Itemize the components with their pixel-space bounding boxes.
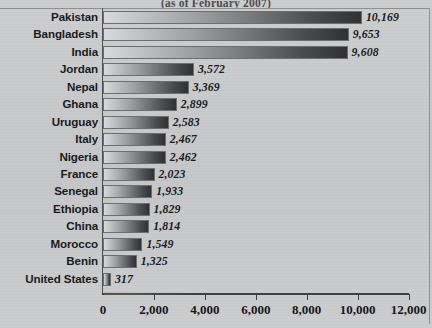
- bar-row: Uruguay2,583: [0, 114, 432, 131]
- x-axis-tick: [409, 294, 411, 300]
- bar-row: Bangladesh9,653: [0, 26, 432, 43]
- bar-fill: [103, 28, 349, 41]
- bar-fill: [103, 116, 169, 129]
- bar: [103, 46, 348, 59]
- bar: [103, 151, 166, 164]
- bar-value-label: 2,583: [173, 115, 200, 130]
- bar-category-label: Bangladesh: [0, 26, 98, 43]
- bar-value-label: 2,023: [159, 167, 186, 182]
- x-axis-tick: [358, 294, 360, 300]
- bar: [103, 98, 177, 111]
- bar-value-label: 9,653: [353, 27, 380, 42]
- bar-row: France2,023: [0, 166, 432, 183]
- bar-chart-rows: Pakistan10,169Bangladesh9,653India9,608J…: [0, 9, 432, 290]
- bar-fill: [103, 151, 166, 164]
- bar-value-label: 10,169: [366, 10, 399, 25]
- bar-fill: [103, 185, 152, 198]
- bar: [103, 63, 194, 76]
- x-axis-tick-label: 2,000: [139, 302, 168, 318]
- bar-value-label: 3,369: [193, 80, 220, 95]
- bar-category-label: Pakistan: [0, 9, 98, 26]
- bar-row: Ghana2,899: [0, 96, 432, 113]
- x-axis-tick: [307, 294, 309, 300]
- bar: [103, 168, 155, 181]
- bar-fill: [103, 98, 177, 111]
- bar-fill: [103, 168, 155, 181]
- x-axis-tick-label: 4,000: [190, 302, 219, 318]
- bar-category-label: Benin: [0, 253, 98, 270]
- x-axis-tick-label: 8,000: [292, 302, 321, 318]
- bar-fill: [103, 273, 111, 286]
- bar-value-label: 2,899: [181, 97, 208, 112]
- bar-category-label: China: [0, 218, 98, 235]
- bar-row: China1,814: [0, 218, 432, 235]
- bar-fill: [103, 220, 149, 233]
- bar: [103, 220, 149, 233]
- bar-fill: [103, 46, 348, 59]
- bar-value-label: 3,572: [198, 62, 225, 77]
- bar-row: United States317: [0, 271, 432, 288]
- bar: [103, 11, 362, 24]
- bar-fill: [103, 255, 137, 268]
- bar-category-label: Morocco: [0, 236, 98, 253]
- bar-value-label: 2,467: [170, 132, 197, 147]
- x-axis-tick: [154, 294, 156, 300]
- scanned-page-background: (as of February 2007) Pakistan10,169Bang…: [0, 0, 432, 328]
- bar: [103, 116, 169, 129]
- bar: [103, 255, 137, 268]
- bar: [103, 28, 349, 41]
- bar-category-label: India: [0, 44, 98, 61]
- bar-category-label: Italy: [0, 131, 98, 148]
- bar-fill: [103, 203, 150, 216]
- bar-fill: [103, 11, 362, 24]
- bar-row: India9,608: [0, 44, 432, 61]
- bar-value-label: 1,325: [141, 254, 168, 269]
- bar-fill: [103, 63, 194, 76]
- bar-row: Nepal3,369: [0, 79, 432, 96]
- x-axis-tick-label: 10,000: [340, 302, 376, 318]
- bar-category-label: Nepal: [0, 79, 98, 96]
- bar-category-label: Ethiopia: [0, 201, 98, 218]
- bar-fill: [103, 238, 142, 251]
- bar-row: Italy2,467: [0, 131, 432, 148]
- bar-row: Jordan3,572: [0, 61, 432, 78]
- bar-value-label: 1,933: [156, 184, 183, 199]
- bar-value-label: 9,608: [352, 45, 379, 60]
- bar-row: Pakistan10,169: [0, 9, 432, 26]
- x-axis-tick-label: 0: [100, 302, 107, 318]
- bar-category-label: Nigeria: [0, 149, 98, 166]
- x-axis-tick-label: 12,000: [391, 302, 427, 318]
- x-axis-tick-label: 6,000: [241, 302, 270, 318]
- bar-row: Benin1,325: [0, 253, 432, 270]
- bar-row: Ethiopia1,829: [0, 201, 432, 218]
- bar-fill: [103, 81, 189, 94]
- bar-value-label: 317: [115, 272, 133, 287]
- bar-category-label: Jordan: [0, 61, 98, 78]
- bar-row: Morocco1,549: [0, 236, 432, 253]
- bar-category-label: Uruguay: [0, 114, 98, 131]
- bar: [103, 203, 150, 216]
- y-axis-line: [102, 8, 103, 293]
- bar-fill: [103, 133, 166, 146]
- bar-row: Senegal1,933: [0, 183, 432, 200]
- bar-row: Nigeria2,462: [0, 149, 432, 166]
- bar: [103, 238, 142, 251]
- bar: [103, 185, 152, 198]
- x-axis-tick: [205, 294, 207, 300]
- bar-category-label: France: [0, 166, 98, 183]
- bar-value-label: 1,829: [154, 202, 181, 217]
- bar-category-label: Senegal: [0, 183, 98, 200]
- bar-value-label: 1,814: [153, 219, 180, 234]
- bar-value-label: 2,462: [170, 150, 197, 165]
- bar: [103, 81, 189, 94]
- bar-value-label: 1,549: [146, 237, 173, 252]
- bar: [103, 273, 111, 286]
- bar-category-label: United States: [0, 271, 98, 288]
- x-axis-tick: [256, 294, 258, 300]
- bar-category-label: Ghana: [0, 96, 98, 113]
- bar: [103, 133, 166, 146]
